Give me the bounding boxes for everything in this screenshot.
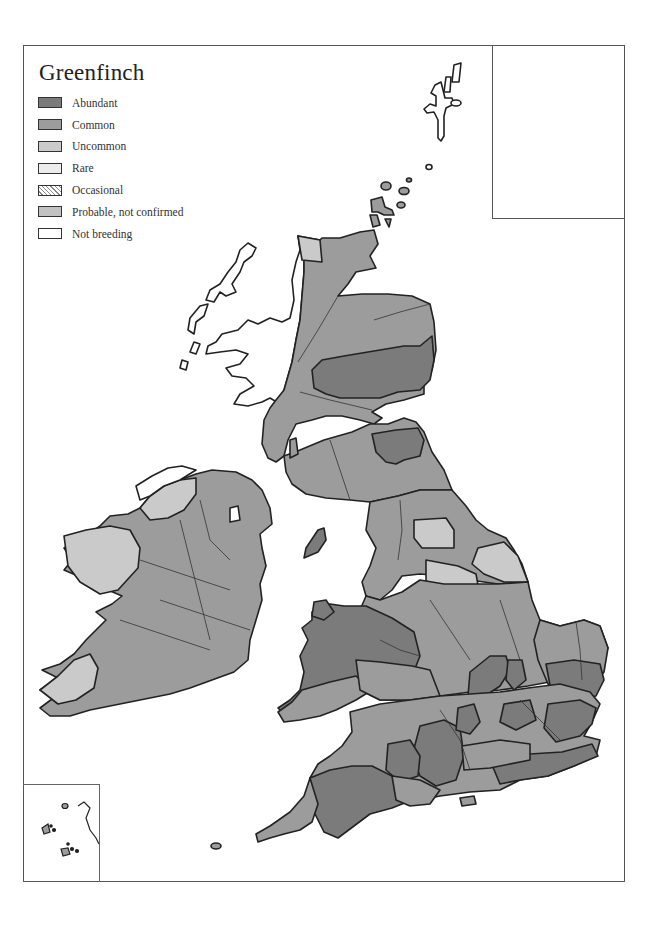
legend-label: Abundant (72, 97, 117, 109)
shetland-islands (424, 63, 461, 170)
legend-swatch-not-breeding (38, 228, 62, 239)
legend-label: Probable, not confirmed (72, 206, 183, 218)
channel-islands-inset (23, 784, 100, 882)
durham-uncommon (414, 518, 454, 548)
legend-item-uncommon: Uncommon (38, 136, 183, 158)
orkney-islands (370, 178, 412, 227)
legend-label: Not breeding (72, 228, 132, 240)
isle-of-man (304, 528, 326, 558)
legend-item-occasional: Occasional (38, 179, 183, 201)
map-title: Greenfinch (39, 60, 144, 86)
legend-swatch-probable (38, 206, 62, 217)
legend-swatch-common (38, 119, 62, 130)
legend-item-not-breeding: Not breeding (38, 223, 183, 245)
legend-item-rare: Rare (38, 157, 183, 179)
legend-item-abundant: Abundant (38, 92, 183, 114)
overview-inset (492, 45, 625, 219)
kent-abundant (544, 700, 596, 742)
isle-of-wight (460, 796, 476, 806)
legend-label: Uncommon (72, 140, 126, 152)
legend-swatch-abundant (38, 97, 62, 108)
legend-swatch-occasional (38, 185, 62, 196)
legend: Abundant Common Uncommon Rare Occasional… (38, 92, 183, 245)
caithness-uncommon (298, 236, 322, 262)
legend-item-probable: Probable, not confirmed (38, 201, 183, 223)
legend-item-common: Common (38, 114, 183, 136)
lough-neagh (230, 506, 240, 522)
legend-swatch-uncommon (38, 141, 62, 152)
legend-label: Rare (72, 162, 94, 174)
cornwall-common (256, 778, 318, 842)
legend-label: Occasional (72, 184, 123, 196)
legend-swatch-rare (38, 163, 62, 174)
arran (290, 438, 298, 458)
legend-label: Common (72, 119, 115, 131)
